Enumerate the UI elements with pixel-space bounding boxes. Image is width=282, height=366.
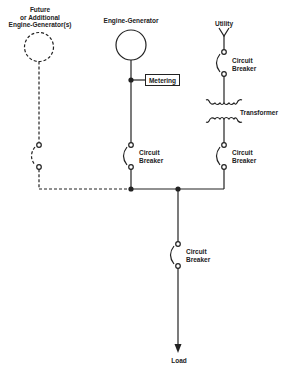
engine-generator-label: Engine-Generator	[104, 17, 159, 25]
label-line: Circuit	[139, 149, 163, 157]
label-line: Circuit	[232, 57, 256, 65]
metering-box: Metering	[145, 74, 180, 86]
label-line: Circuit	[186, 248, 210, 256]
label-line: Breaker	[139, 157, 163, 165]
engine-breaker-arc	[124, 147, 128, 165]
utility-breaker-label: Circuit Breaker	[232, 57, 256, 72]
utility-lower-breaker-label: Circuit Breaker	[232, 149, 256, 164]
utility-lower-breaker-bottom-contact	[222, 165, 227, 170]
load-breaker-top-contact	[176, 242, 181, 247]
utility-lower-breaker-top-contact	[222, 143, 227, 148]
label-line: Engine-Generator(s)	[9, 21, 72, 29]
future-generator-label: Future or Additional Engine-Generator(s)	[9, 6, 72, 29]
future-generator-symbol	[25, 33, 54, 62]
label-line: Breaker	[186, 256, 210, 264]
label-line: Circuit	[232, 149, 256, 157]
future-breaker-arc	[32, 147, 36, 165]
transformer-label: Transformer	[240, 109, 278, 117]
label-line: Breaker	[232, 157, 256, 165]
bus-junction-dot-load	[175, 186, 180, 191]
metering-junction-dot	[128, 77, 133, 82]
label-line: Breaker	[232, 65, 256, 73]
engine-breaker-label: Circuit Breaker	[139, 149, 163, 164]
one-line-diagram	[0, 0, 282, 366]
load-breaker-label: Circuit Breaker	[186, 248, 210, 263]
bus-junction-dot-engine	[128, 186, 133, 191]
label-line: Future	[9, 6, 72, 14]
engine-generator-symbol	[116, 30, 146, 60]
utility-antenna-icon	[219, 28, 229, 36]
engine-breaker-bottom-contact	[129, 165, 134, 170]
utility-breaker-bottom-contact	[222, 72, 227, 77]
load-arrow-icon	[175, 344, 182, 353]
utility-lower-breaker-arc	[217, 147, 221, 165]
utility-breaker-arc	[217, 54, 221, 72]
utility-breaker-top-contact	[222, 50, 227, 55]
load-breaker-bottom-contact	[176, 264, 181, 269]
engine-breaker-top-contact	[129, 143, 134, 148]
load-label: Load	[171, 357, 187, 365]
utility-label: Utility	[215, 20, 233, 28]
future-breaker-top-contact	[37, 143, 42, 148]
label-line: or Additional	[9, 14, 72, 22]
future-breaker-bottom-contact	[37, 165, 42, 170]
load-breaker-arc	[171, 246, 175, 264]
